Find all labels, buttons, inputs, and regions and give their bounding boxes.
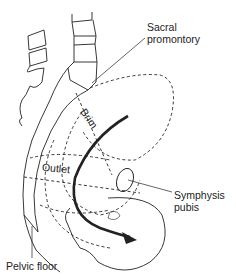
label-outlet: Outlet: [42, 161, 71, 175]
label-pelvic-floor: Pelvic floor: [6, 260, 57, 272]
label-symphysis-pubis: Symphysis pubis: [174, 189, 225, 213]
pelvis-diagram: [0, 0, 236, 279]
lumbar-vertebrae: [20, 30, 48, 126]
leader-lines: [32, 38, 172, 258]
sacrum: [23, 12, 97, 272]
carus-curve-arrow: [74, 116, 137, 244]
arrowhead-icon: [122, 232, 137, 244]
label-sacral-promontory: Sacral promontory: [147, 21, 200, 45]
